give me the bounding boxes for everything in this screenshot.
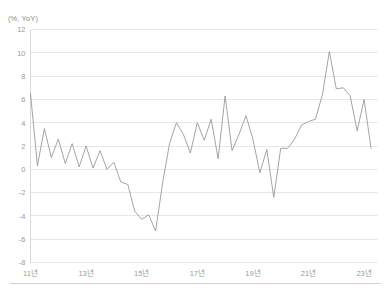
- gridlines: [31, 30, 379, 263]
- x-axis-tick-label: 23년: [356, 268, 371, 278]
- x-axis-tick-label: 11년: [23, 268, 38, 278]
- y-axis-tick-label: 12: [17, 25, 25, 34]
- y-axis-tick-label: 4: [21, 119, 25, 128]
- y-axis-tick-labels: 121086420-2-4-6-8: [17, 25, 25, 267]
- x-axis-tick-label: 17년: [190, 268, 205, 278]
- y-axis-tick-label: 8: [21, 72, 25, 81]
- y-axis-tick-label: 10: [17, 49, 25, 58]
- data-series-line: [31, 52, 372, 231]
- chart-container: (%, YoY) 121086420-2-4-6-8 11년13년15년17년1…: [0, 0, 391, 297]
- y-axis-tick-label: -4: [19, 212, 26, 221]
- line-chart-plot: 121086420-2-4-6-8 11년13년15년17년19년21년23년: [0, 0, 391, 297]
- x-axis-tick-label: 19년: [245, 268, 260, 278]
- x-axis-tick-labels: 11년13년15년17년19년21년23년: [23, 268, 372, 278]
- y-axis-tick-label: -8: [19, 258, 26, 267]
- x-axis-tick-label: 21년: [301, 268, 316, 278]
- data-series-group: [31, 52, 372, 231]
- y-axis-tick-label: -2: [19, 188, 26, 197]
- x-axis-tick-label: 15년: [134, 268, 149, 278]
- y-axis-tick-label: 0: [21, 165, 25, 174]
- y-axis-tick-label: 2: [21, 142, 25, 151]
- x-axis-tick-label: 13년: [78, 268, 93, 278]
- y-axis-tick-label: 6: [21, 95, 25, 104]
- footer-divider: [10, 283, 381, 284]
- y-axis-tick-label: -6: [19, 235, 26, 244]
